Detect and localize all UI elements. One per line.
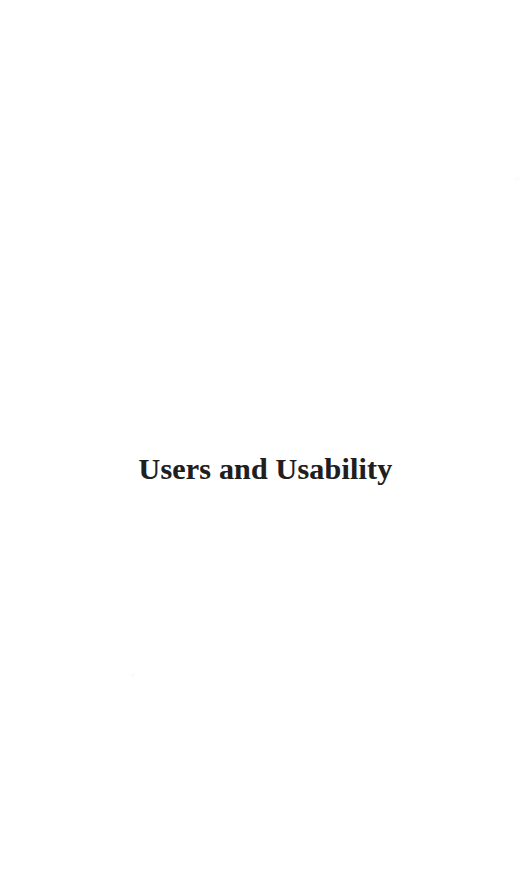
page-title: Users and Usability bbox=[0, 451, 531, 487]
scanned-page: Users and Usability bbox=[0, 0, 531, 881]
scan-speck-top-right bbox=[515, 176, 520, 181]
scan-speck-lower-left bbox=[131, 673, 135, 677]
